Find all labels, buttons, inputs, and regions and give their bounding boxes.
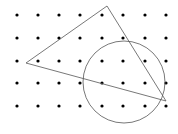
grid-dot [57,59,60,62]
grid-dot [15,104,18,107]
grid-dot [36,81,39,84]
diagram-svg [0,0,178,134]
grid-dot [15,81,18,84]
grid-dot [121,104,124,107]
grid-dot [78,104,81,107]
grid-dot [78,81,81,84]
grid-dot [164,59,167,62]
grid-dot [15,59,18,62]
grid-dot [164,104,167,107]
grid-dot [143,36,146,39]
grid-dot [121,13,124,16]
grid-dot [57,81,60,84]
grid-dot [143,59,146,62]
grid-dot [100,13,103,16]
grid-dot [36,104,39,107]
grid-dot [78,36,81,39]
dot-grid-diagram [0,0,178,134]
grid-dot [100,59,103,62]
grid-dot [36,59,39,62]
grid-dot [15,36,18,39]
grid-dot [78,13,81,16]
grid-dot [121,81,124,84]
grid-dot [164,13,167,16]
grid-dot [78,59,81,62]
grid-dot [57,13,60,16]
triangle-shape [26,6,166,101]
dot-grid [15,13,167,107]
grid-dot [164,36,167,39]
grid-dot [100,104,103,107]
grid-dot [36,13,39,16]
grid-dot [57,104,60,107]
grid-dot [36,36,39,39]
grid-dot [143,81,146,84]
grid-dot [121,59,124,62]
grid-dot [143,13,146,16]
grid-dot [100,36,103,39]
grid-dot [143,104,146,107]
grid-dot [15,13,18,16]
grid-dot [121,36,124,39]
